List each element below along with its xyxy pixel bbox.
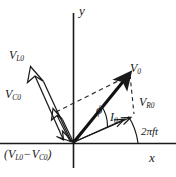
label-vl0: VL0	[9, 49, 24, 61]
label-resultant-minus: −	[23, 147, 32, 161]
label-phi: ϕ	[96, 104, 102, 116]
label-x-axis: x	[149, 151, 155, 164]
label-vr0: VR0	[139, 96, 154, 108]
phasor-diagram-figure: VL0 VC0 V0 VR0 I0 ϕ 2πft (VL0−VC0) x y	[0, 0, 176, 177]
label-resultant-close: )	[47, 147, 51, 161]
label-resultant-vc0-base: V	[32, 147, 39, 161]
dashed-parallelogram-right	[130, 75, 134, 114]
vl0-shaft-lower	[44, 82, 72, 142]
angle-arcs	[102, 106, 139, 143]
omega-t-angle-arc	[129, 117, 139, 144]
label-omega-t: 2πft	[141, 126, 158, 137]
vector-vl0-vc0-double-arrow	[28, 67, 74, 143]
label-v0-sub: 0	[137, 67, 141, 76]
label-vc0-sub: C0	[12, 93, 20, 102]
label-resultant-vc0-sub: C0	[39, 153, 47, 162]
label-i0-sub: 0	[114, 116, 118, 125]
label-vc0: VC0	[5, 88, 21, 100]
vl0-shaft-upper	[35, 76, 64, 140]
label-resultant-vl0-sub: L0	[15, 153, 23, 162]
vl0-arrowhead	[28, 67, 44, 83]
label-v0: V0	[130, 62, 141, 74]
label-resultant-reactive: (VL0−VC0)	[4, 148, 51, 160]
dashed-parallelogram-left	[56, 76, 128, 112]
label-i0: I0	[110, 111, 118, 123]
axis-lines	[0, 13, 176, 168]
label-y-axis: y	[79, 4, 85, 17]
label-vl0-sub: L0	[16, 54, 24, 63]
label-vr0-sub: R0	[146, 101, 154, 110]
